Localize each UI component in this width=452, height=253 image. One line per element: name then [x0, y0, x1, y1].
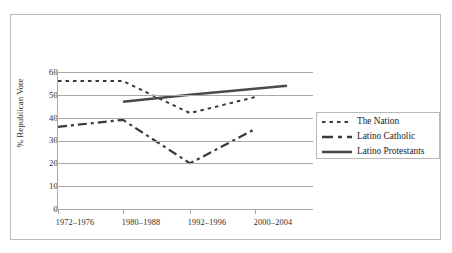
gridline-50: [58, 95, 313, 96]
gridline-10: [58, 186, 313, 187]
gridline-0: [58, 209, 313, 210]
x-tick-label-1992-1996: 1992–1996: [172, 218, 242, 227]
x-tick-label-1972-1976: 1972–1976: [40, 218, 110, 227]
y-axis-title: % Republican Vote: [15, 63, 25, 163]
legend-swatch-dash-dot-icon: [321, 132, 353, 142]
chart-figure: % Republican Vote 60 50 40 30 20 10 0: [0, 0, 452, 253]
gridline-40: [58, 118, 313, 119]
gridlines: [58, 72, 313, 209]
plot-area: [58, 72, 313, 209]
x-tick-mark-4: [255, 209, 256, 214]
gridline-20: [58, 163, 313, 164]
legend-item-latino-protestants: Latino Protestants: [321, 144, 424, 159]
x-tick-label-1980-1988: 1980–1988: [106, 218, 176, 227]
legend-label-latino-catholic: Latino Catholic: [357, 132, 415, 141]
x-tick-mark-2: [123, 209, 124, 214]
legend-item-latino-catholic: Latino Catholic: [321, 129, 415, 144]
legend: The Nation Latino Catholic Latino Protes…: [316, 112, 440, 159]
legend-item-the-nation: The Nation: [321, 114, 399, 129]
legend-swatch-solid-icon: [321, 147, 353, 157]
x-tick-mark-3: [190, 209, 191, 214]
legend-label-the-nation: The Nation: [357, 117, 399, 126]
legend-swatch-dotted-icon: [321, 117, 353, 127]
gridline-30: [58, 141, 313, 142]
legend-label-latino-protestants: Latino Protestants: [357, 147, 424, 156]
x-tick-mark-1: [58, 209, 59, 214]
x-tick-label-2000-2004: 2000–2004: [238, 218, 308, 227]
gridline-60: [58, 72, 313, 73]
